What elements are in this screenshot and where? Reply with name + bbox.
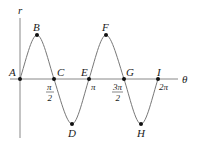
label-B: B: [33, 21, 40, 33]
tick-2pi: 2π: [159, 82, 169, 92]
label-A: A: [8, 66, 16, 78]
label-E: E: [80, 66, 88, 78]
label-D: D: [67, 127, 76, 139]
point-A: [18, 77, 22, 81]
tick-pi: π: [91, 82, 96, 92]
label-H: H: [136, 127, 146, 139]
label-G: G: [126, 66, 134, 78]
tick-3pi-over-2-den: 2: [116, 93, 121, 103]
point-H: [139, 122, 143, 126]
label-I: I: [156, 66, 162, 78]
tick-pi-over-2-den: 2: [48, 93, 53, 103]
point-F: [104, 33, 108, 37]
label-F: F: [101, 21, 109, 33]
label-C: C: [57, 66, 65, 78]
point-B: [35, 33, 39, 37]
sine-graph: r θ A B C D E F G H I π 2 π 3π 2 2π: [0, 0, 197, 143]
point-D: [70, 122, 74, 126]
tick-pi-over-2-num: π: [47, 82, 52, 92]
theta-axis-label: θ: [182, 73, 188, 85]
point-C: [52, 77, 56, 81]
r-axis-label: r: [18, 4, 23, 16]
tick-3pi-over-2-num: 3π: [112, 82, 123, 92]
